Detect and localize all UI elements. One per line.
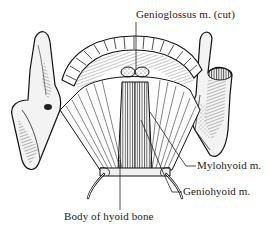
left-mandible-ramus bbox=[12, 32, 61, 170]
label-genioglossus: Genioglossus m. (cut) bbox=[136, 8, 235, 20]
anatomical-illustration bbox=[0, 0, 270, 235]
label-geniohyoid: Geniohyoid m. bbox=[183, 185, 250, 197]
label-mylohyoid: Mylohyoid m. bbox=[197, 159, 261, 171]
right-mandible-ramus bbox=[191, 32, 232, 156]
genioglossus-cut-ends bbox=[121, 67, 149, 77]
label-hyoid-body: Body of hyoid bone bbox=[64, 210, 154, 222]
geniohyoid-muscle bbox=[118, 82, 152, 170]
